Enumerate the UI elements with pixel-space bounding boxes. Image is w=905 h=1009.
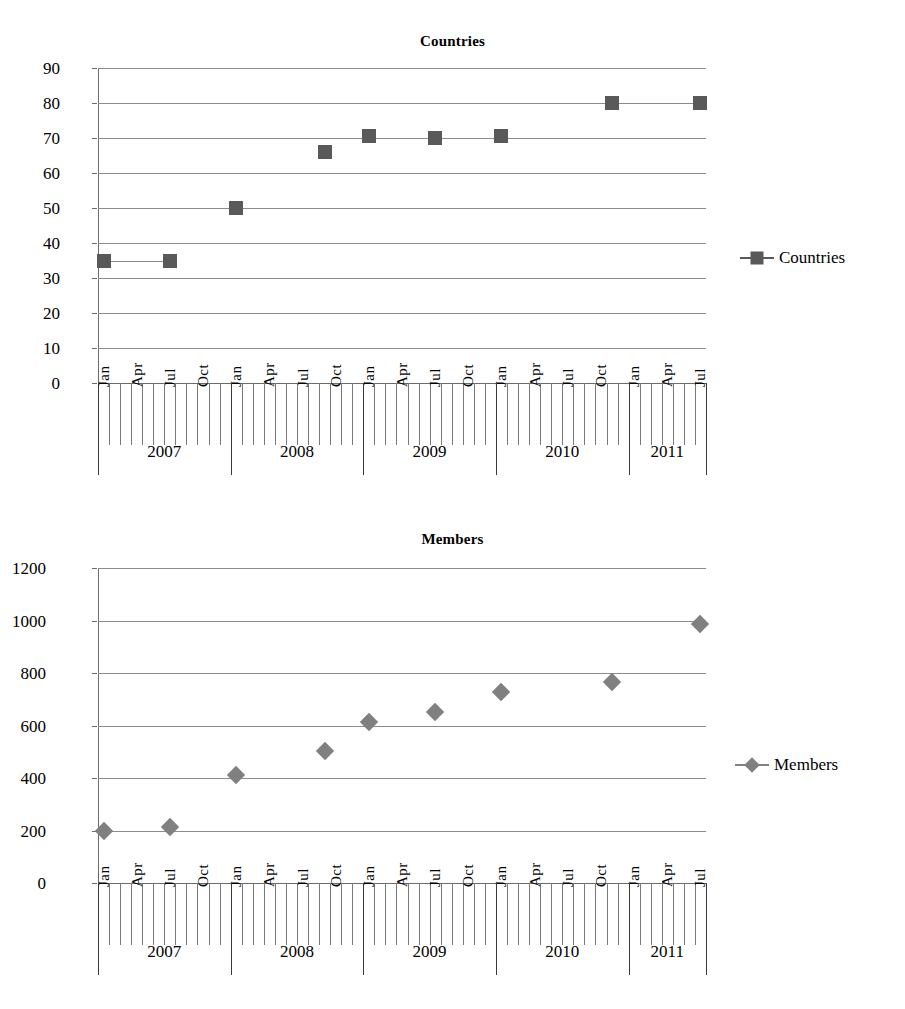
- x-axis-month-label: Apr: [395, 362, 410, 387]
- x-axis-month-tick: [164, 383, 165, 445]
- x-axis-bottom-rule: [98, 475, 706, 476]
- x-axis-month-tick: [142, 383, 143, 445]
- x-axis-month-tick: [452, 383, 453, 445]
- x-axis-month-tick: [419, 383, 420, 445]
- x-axis-month-label: Oct: [196, 864, 211, 887]
- data-point-marker: [97, 254, 111, 268]
- gridline: [98, 778, 706, 779]
- x-axis-month-tick: [463, 883, 464, 945]
- y-axis-tick-label: 80: [43, 95, 60, 112]
- y-axis-tick-label: 90: [43, 60, 60, 77]
- x-axis-month-tick: [419, 883, 420, 945]
- x-axis-month-tick: [540, 883, 541, 945]
- gridline: [98, 831, 706, 832]
- x-axis-year-separator: [706, 383, 707, 475]
- x-axis-month-tick: [319, 883, 320, 945]
- gridline: [98, 138, 706, 139]
- x-axis-bottom-rule: [98, 975, 706, 976]
- gridline: [98, 313, 706, 314]
- x-axis-month-tick: [374, 383, 375, 445]
- x-axis-month-label: Oct: [196, 364, 211, 387]
- y-axis-tick-label: 60: [43, 165, 60, 182]
- x-axis-month-label: Jul: [295, 868, 310, 887]
- x-axis-month-tick: [286, 883, 287, 945]
- x-axis-month-tick: [485, 883, 486, 945]
- x-axis-month-label: Apr: [395, 862, 410, 887]
- x-axis-month-label: Oct: [593, 864, 608, 887]
- y-axis-tick-label: 600: [21, 717, 47, 734]
- legend-label-members: Members: [774, 755, 838, 775]
- x-axis-month-tick: [186, 383, 187, 445]
- x-axis-month-tick: [319, 383, 320, 445]
- plot-area-countries: 0102030405060708090JanAprJulOctJanAprJul…: [98, 68, 706, 383]
- y-axis-tick: [92, 173, 97, 174]
- x-axis-year-label: 2007: [98, 942, 231, 962]
- y-axis-tick-label: 200: [21, 822, 47, 839]
- x-axis-month-tick: [197, 383, 198, 445]
- x-axis-month-tick: [618, 383, 619, 445]
- y-axis-tick: [92, 673, 97, 674]
- x-axis-month-tick: [175, 383, 176, 445]
- x-axis-month-tick: [551, 883, 552, 945]
- x-axis-month-tick: [452, 883, 453, 945]
- x-axis-month-label: Jul: [162, 368, 177, 387]
- data-point-marker: [227, 765, 245, 783]
- x-axis-month-tick: [651, 883, 652, 945]
- y-axis-tick: [92, 621, 97, 622]
- x-axis-month-tick: [540, 383, 541, 445]
- x-axis-month-tick: [562, 383, 563, 445]
- y-axis-tick-label: 400: [21, 770, 47, 787]
- y-axis-tick: [92, 313, 97, 314]
- data-point-marker: [229, 201, 243, 215]
- x-axis-month-tick: [330, 383, 331, 445]
- x-axis-month-tick: [396, 883, 397, 945]
- x-axis-month-tick: [474, 383, 475, 445]
- x-axis-month-tick: [253, 883, 254, 945]
- y-axis-tick: [92, 726, 97, 727]
- data-point-marker: [494, 129, 508, 143]
- x-axis-month-tick: [297, 883, 298, 945]
- y-axis-tick-label: 40: [43, 235, 60, 252]
- x-axis-month-label: Jul: [560, 368, 575, 387]
- x-axis-month-tick: [463, 383, 464, 445]
- x-axis-month-tick: [242, 883, 243, 945]
- x-axis-month-tick: [109, 383, 110, 445]
- y-axis-tick: [92, 243, 97, 244]
- y-axis-tick: [92, 208, 97, 209]
- x-axis-month-tick: [120, 883, 121, 945]
- x-axis-month-tick: [618, 883, 619, 945]
- x-axis-month-tick: [264, 383, 265, 445]
- y-axis-tick: [92, 68, 97, 69]
- x-axis-month-tick: [408, 383, 409, 445]
- x-axis-month-tick: [507, 383, 508, 445]
- gridline: [98, 568, 706, 569]
- gridline: [98, 68, 706, 69]
- x-axis-month-tick: [286, 383, 287, 445]
- x-axis-month-tick: [529, 883, 530, 945]
- x-axis-month-tick: [374, 883, 375, 945]
- gridline: [98, 673, 706, 674]
- x-axis-month-tick: [341, 383, 342, 445]
- x-axis-month-tick: [120, 383, 121, 445]
- series-connector: [612, 103, 700, 104]
- x-axis-month-tick: [396, 383, 397, 445]
- y-axis-tick: [92, 348, 97, 349]
- x-axis-month-label: Oct: [593, 364, 608, 387]
- x-axis-month-tick: [551, 383, 552, 445]
- x-axis-month-label: Apr: [129, 862, 144, 887]
- x-axis-month-tick: [640, 383, 641, 445]
- x-axis-month-tick: [385, 883, 386, 945]
- y-axis-line: [98, 68, 99, 383]
- series-connector: [104, 261, 170, 262]
- x-axis-month-tick: [131, 883, 132, 945]
- x-axis-month-tick: [352, 383, 353, 445]
- x-axis-month-tick: [264, 883, 265, 945]
- x-axis-month-tick: [441, 383, 442, 445]
- x-axis-month-label: Jul: [295, 368, 310, 387]
- x-axis-month-tick: [430, 883, 431, 945]
- x-axis-month-tick: [175, 883, 176, 945]
- x-axis-month-tick: [595, 883, 596, 945]
- x-axis-month-tick: [651, 383, 652, 445]
- x-axis-month-tick: [308, 383, 309, 445]
- x-axis-month-label: Jul: [560, 868, 575, 887]
